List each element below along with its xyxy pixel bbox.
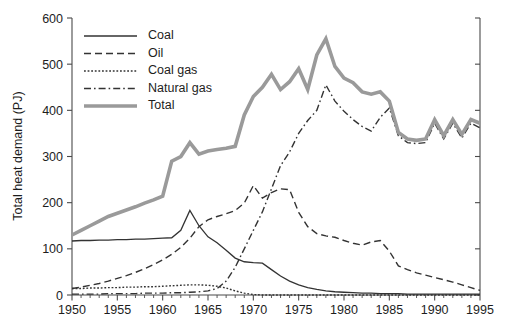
x-tick-label: 1990 [421,303,449,317]
y-axis-title: Total heat demand (PJ) [11,91,25,220]
x-tick-label: 1985 [375,303,403,317]
legend-label: Coal gas [148,63,197,77]
y-axis-ticks [67,18,72,295]
series-line-oil [72,186,480,291]
y-tick-label: 400 [42,104,63,118]
x-tick-label: 1980 [330,303,358,317]
y-axis-tick-labels: 0100200300400500600 [42,12,63,303]
y-tick-label: 100 [42,242,63,256]
y-axis-ticks-right [475,18,480,295]
series-layer [72,39,480,295]
series-line-natural-gas [72,85,480,294]
series-line-total [72,39,480,235]
series-line-coal [72,211,480,295]
x-tick-label: 1965 [194,303,222,317]
legend-item-coal-gas: Coal gas [84,63,197,77]
y-tick-label: 500 [42,58,63,72]
x-axis-tick-labels: 1950195519601965197019751980198519901995 [58,303,494,317]
x-axis-ticks [72,295,480,301]
legend-item-coal: Coal [84,28,174,42]
x-tick-label: 1950 [58,303,86,317]
x-tick-label: 1955 [103,303,131,317]
plot-axes [72,18,480,295]
legend-label: Coal [148,28,174,42]
legend-label: Total [148,98,174,112]
x-tick-label: 1970 [239,303,267,317]
y-tick-label: 600 [42,12,63,26]
x-tick-label: 1995 [466,303,494,317]
y-tick-label: 0 [56,289,63,303]
heat-demand-line-chart: 0100200300400500600 19501955196019651970… [0,0,505,330]
chart-container: 0100200300400500600 19501955196019651970… [0,0,505,330]
y-tick-label: 200 [42,196,63,210]
y-tick-label: 300 [42,150,63,164]
legend-label: Oil [148,46,163,60]
chart-legend: CoalOilCoal gasNatural gasTotal [84,28,212,112]
x-tick-label: 1960 [149,303,177,317]
legend-item-total: Total [84,98,174,112]
legend-label: Natural gas [148,81,212,95]
legend-item-oil: Oil [84,46,163,60]
legend-item-natural-gas: Natural gas [84,81,212,95]
x-tick-label: 1975 [285,303,313,317]
